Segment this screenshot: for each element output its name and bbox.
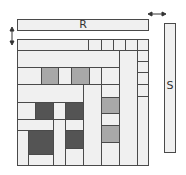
cell (17, 102, 36, 120)
s-bar: S (164, 23, 176, 153)
cell (65, 148, 84, 166)
cell (28, 130, 54, 155)
cell (101, 84, 120, 98)
vertical-double-arrow-icon (10, 27, 14, 45)
cell (137, 96, 149, 166)
cell (35, 102, 54, 120)
cell (17, 84, 84, 103)
cell (58, 67, 72, 85)
cell (101, 142, 120, 166)
s-label: S (165, 79, 175, 92)
cell (101, 97, 120, 114)
cell (101, 67, 120, 85)
cell (83, 84, 102, 166)
cell (17, 67, 42, 85)
cell (28, 154, 54, 166)
cell (101, 125, 120, 143)
cell (65, 102, 84, 120)
r-bar: R (17, 19, 149, 31)
cell (41, 67, 59, 85)
r-label: R (18, 18, 148, 31)
cell (119, 50, 138, 166)
cell (71, 67, 90, 85)
horizontal-double-arrow-icon (148, 12, 166, 16)
cell (17, 50, 120, 68)
cell (65, 130, 84, 149)
